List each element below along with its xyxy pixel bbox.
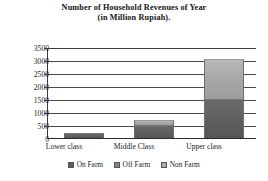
legend-item-off-farm: Off Farm [114,161,150,169]
stacked-bar-middle-class [134,120,174,138]
bar-segment-on-farm [204,99,244,138]
y-axis-label-1000: 1000 [9,110,49,118]
legend-label-on-farm: On Farm [77,161,103,169]
bar-segment-on-farm [134,125,174,138]
legend-swatch-on-farm-icon [68,162,74,168]
bar-segment-on-farm [64,133,104,138]
chart-title: Number of Household Revenues of Year (in… [0,3,268,23]
stacked-bar-lower-class [64,133,104,138]
legend-item-non-farm: Non Farm [161,161,200,169]
y-axis-label-2000: 2000 [9,84,49,92]
chart-title-line-1: Number of Household Revenues of Year [0,3,268,13]
bar-chart: Number of Household Revenues of Year (in… [0,0,268,181]
plot-area [47,48,256,139]
legend-swatch-off-farm-icon [114,162,120,168]
bar-segment-non-farm [204,59,244,99]
stacked-bar-upper-class [204,59,244,138]
y-axis-label-3000: 3000 [9,58,49,66]
x-axis-label-upper-class: Upper class [166,143,242,151]
legend-swatch-non-farm-icon [161,162,167,168]
chart-title-line-2: (in Million Rupiah). [0,13,268,23]
legend-label-off-farm: Off Farm [123,161,151,169]
y-axis-label-1500: 1500 [9,97,49,105]
y-axis-label-2500: 2500 [9,71,49,79]
chart-legend: On Farm Off Farm Non Farm [0,161,268,169]
legend-label-non-farm: Non Farm [170,161,200,169]
x-axis-line [47,138,256,139]
y-axis-label-500: 500 [9,123,49,131]
y-axis-label-0: 0 [9,136,49,144]
y-axis-line [47,48,48,139]
x-axis-label-middle-class: Middle Class [96,143,172,151]
x-axis-label-lower-class: Lower class [26,143,102,151]
gridline-3500 [47,48,256,49]
legend-item-on-farm: On Farm [68,161,103,169]
y-axis-label-3500: 3500 [9,45,49,53]
